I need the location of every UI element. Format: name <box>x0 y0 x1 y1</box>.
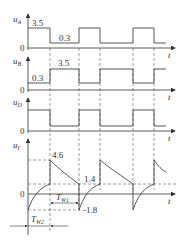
uI-trough-value: -1.8 <box>83 205 98 215</box>
uA-t-label: t <box>168 50 171 60</box>
uI-signal <box>28 160 166 210</box>
uA-origin: 0 <box>20 43 25 53</box>
waveform-uI: uI 4.6 1.4 -1.8 0 t TW1 TW2 <box>10 139 178 235</box>
timing-diagram: uA 3.5 0.3 0 t uB 3.5 0.3 0 t uD 0 t uI <box>0 0 186 242</box>
uI-label: uI <box>13 140 21 151</box>
waveform-uD: uD 0 t <box>13 97 175 143</box>
uI-peak-value: 4.6 <box>52 150 64 160</box>
uB-low-value: 0.3 <box>32 73 44 83</box>
uI-origin: 0 <box>20 189 25 199</box>
uB-label: uB <box>13 56 22 67</box>
uB-high-value: 3.5 <box>58 58 70 68</box>
waveform-uB: uB 3.5 0.3 0 t <box>13 56 175 102</box>
uB-signal <box>28 69 166 83</box>
uD-signal <box>28 110 166 126</box>
uD-origin: 0 <box>20 126 25 136</box>
uA-label: uA <box>13 14 22 25</box>
waveform-uA: uA 3.5 0.3 0 t <box>13 14 175 60</box>
tw2-label: TW2 <box>31 214 44 225</box>
uI-threshold-value: 1.4 <box>84 174 96 184</box>
uA-high-value: 3.5 <box>32 18 44 28</box>
uI-t-label: t <box>168 196 171 206</box>
uB-origin: 0 <box>20 85 25 95</box>
uA-signal <box>28 28 166 43</box>
uD-label: uD <box>13 97 23 108</box>
uB-t-label: t <box>168 92 171 102</box>
transition-guides <box>50 48 154 232</box>
uD-t-label: t <box>168 133 171 143</box>
uA-low-value: 0.3 <box>59 33 71 43</box>
